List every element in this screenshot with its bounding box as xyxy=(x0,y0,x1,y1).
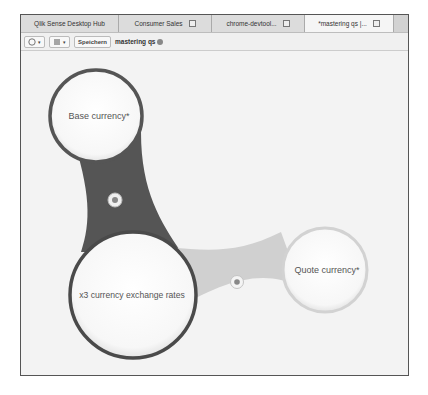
chevron-down-icon: ▾ xyxy=(63,39,66,45)
table-label-exchange-rates[interactable]: x3 currency exchange rates xyxy=(79,290,185,300)
tab-label: Consumer Sales xyxy=(134,20,182,27)
view-menu-button[interactable]: ▾ xyxy=(49,36,70,48)
tab-consumer-sales[interactable]: Consumer Sales xyxy=(119,15,212,32)
save-button[interactable]: Speichern xyxy=(74,36,111,48)
table-label-base-currency[interactable]: Base currency* xyxy=(68,111,129,121)
tab-chrome-devtools[interactable]: chrome-devtool... xyxy=(212,15,305,32)
tab-strip-filler xyxy=(394,15,408,32)
tab-strip: Qlik Sense Desktop Hub Consumer Sales ch… xyxy=(21,15,408,33)
chevron-down-icon: ▾ xyxy=(38,39,41,45)
app-title-text: mastering qs xyxy=(115,38,155,45)
data-model-canvas[interactable]: Base currency* x3 currency exchange rate… xyxy=(21,52,408,376)
tab-mastering-qs[interactable]: *mastering qs |... xyxy=(305,15,394,32)
tab-hub[interactable]: Qlik Sense Desktop Hub xyxy=(21,15,119,32)
list-icon xyxy=(53,38,61,46)
app-toolbar: ▾ ▾ Speichern mastering qs xyxy=(21,33,408,51)
navigation-menu-button[interactable]: ▾ xyxy=(24,36,45,48)
compass-icon xyxy=(28,38,36,46)
tab-label: chrome-devtool... xyxy=(226,20,276,27)
tab-label: Qlik Sense Desktop Hub xyxy=(34,20,105,27)
info-icon[interactable] xyxy=(157,39,163,45)
app-title: mastering qs xyxy=(115,38,163,45)
close-icon[interactable] xyxy=(283,20,290,27)
close-icon[interactable] xyxy=(189,20,196,27)
browser-window: Qlik Sense Desktop Hub Consumer Sales ch… xyxy=(20,14,409,376)
model-diagram xyxy=(21,52,409,376)
close-icon[interactable] xyxy=(373,20,380,27)
table-label-quote-currency[interactable]: Quote currency* xyxy=(294,265,359,275)
tab-label: *mastering qs |... xyxy=(318,20,367,27)
